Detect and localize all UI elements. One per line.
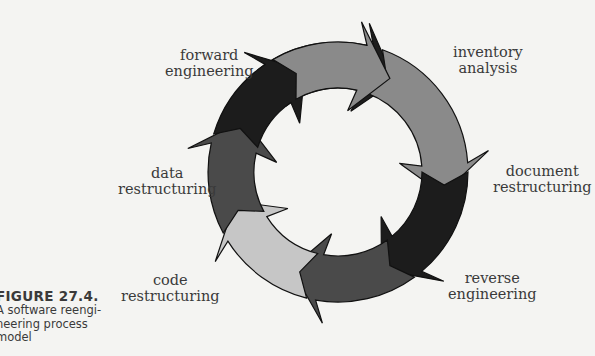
label-line: restructuring	[118, 181, 217, 197]
label-line: code	[121, 272, 220, 288]
label-line: data	[118, 165, 217, 181]
label-line: inventory	[453, 44, 523, 60]
label-reverse-engineering: reverse engineering	[448, 270, 537, 302]
label-forward-engineering: forward engineering	[165, 47, 254, 79]
label-line: restructuring	[493, 179, 592, 195]
label-document-restructuring: document restructuring	[493, 163, 592, 195]
caption-line-2: neering process	[0, 318, 146, 332]
label-inventory-analysis: inventory analysis	[453, 44, 523, 76]
figure-caption: FIGURE 27.4. A software reengi- neering …	[0, 288, 146, 345]
document-restructuring-arrow	[381, 172, 468, 281]
label-line: reverse	[448, 270, 537, 286]
label-line: engineering	[448, 286, 537, 302]
label-line: analysis	[453, 60, 523, 76]
figure-number: FIGURE 27.4.	[0, 288, 146, 304]
label-line: engineering	[165, 63, 254, 79]
caption-line-3: model	[0, 331, 146, 345]
label-line: forward	[165, 47, 254, 63]
caption-line-1: A software reengi-	[0, 304, 146, 318]
label-data-restructuring: data restructuring	[118, 165, 217, 197]
label-line: document	[493, 163, 592, 179]
